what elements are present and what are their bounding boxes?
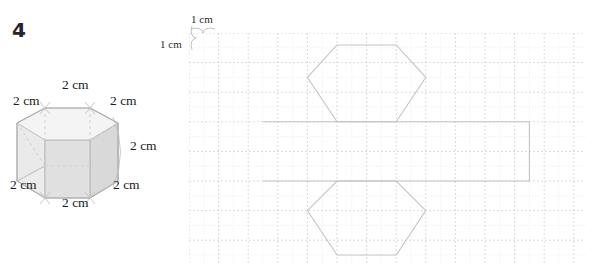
worksheet-page: 4	[0, 0, 601, 280]
prism-label-bottom-front-edge: 2 cm	[62, 196, 89, 210]
hexagonal-prism-figure: 2 cm 2 cm 2 cm 2 cm 2 cm 2 cm 2 cm	[0, 60, 185, 225]
scale-callout-left-bracket	[191, 26, 196, 50]
question-number: 4	[12, 18, 26, 42]
prism-label-top-left-edge: 2 cm	[13, 94, 40, 108]
centimetre-grid	[189, 33, 585, 265]
prism-label-vertical-height: 2 cm	[130, 139, 157, 153]
prism-label-top-back-edge: 2 cm	[62, 78, 89, 92]
scale-callout-top-bracket	[191, 28, 215, 33]
grid-major-lines	[189, 33, 585, 265]
prism-label-bottom-left-edge: 2 cm	[10, 178, 37, 192]
scale-label-top: 1 cm	[191, 13, 213, 25]
scale-label-left: 1 cm	[160, 38, 182, 50]
prism-label-top-right-edge: 2 cm	[110, 94, 137, 108]
prism-label-bottom-right-edge: 2 cm	[113, 178, 140, 192]
prism-front-face	[45, 140, 90, 198]
hexagonal-prism-drawing	[0, 60, 185, 225]
grid-panel	[189, 33, 585, 265]
